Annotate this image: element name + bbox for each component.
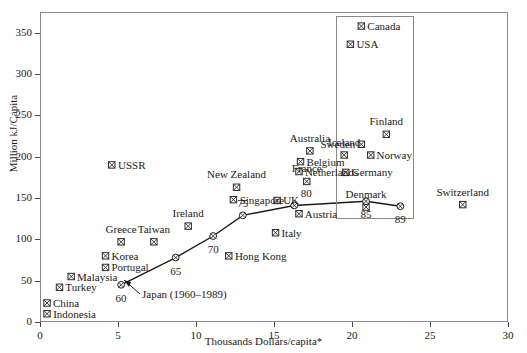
y-axis-title: Million kJ/Capita	[7, 74, 20, 194]
tick-mark	[35, 281, 40, 282]
data-point-label: Switzerland	[436, 185, 489, 198]
x-axis-tick: 5	[118, 322, 119, 348]
y-axis-tick: 150	[0, 198, 40, 199]
y-axis-tick: 350	[0, 33, 40, 34]
data-point-label: New Zealand	[207, 168, 266, 181]
data-point-label: Ireland	[173, 207, 204, 220]
y-axis-tick: 0	[0, 322, 40, 323]
japan-year-label: 80	[301, 187, 312, 200]
japan-year-label: 75	[237, 197, 248, 210]
tick-mark	[35, 115, 40, 116]
x-axis-tick: 20	[352, 322, 353, 348]
y-tick-label: 300	[16, 66, 33, 81]
data-point-label: Finland	[370, 115, 404, 128]
tick-mark	[118, 322, 119, 327]
data-point-label: USSR	[118, 158, 146, 171]
x-tick-label: 5	[104, 328, 132, 342]
y-tick-label: 0	[27, 314, 33, 329]
tick-mark	[35, 198, 40, 199]
x-tick-label: 10	[182, 328, 210, 342]
data-point-label: Greece	[106, 222, 137, 235]
japan-year-label: 65	[170, 264, 181, 277]
japan-year-label: 89	[395, 213, 406, 226]
x-tick-label: 20	[338, 328, 366, 342]
tick-mark	[35, 74, 40, 75]
x-tick-label: 15	[260, 328, 288, 342]
tick-mark	[430, 322, 431, 327]
japan-series-annotation: Japan (1960–1989)	[142, 288, 227, 301]
japan-year-label: 60	[116, 291, 127, 304]
data-point-label: China	[53, 296, 79, 309]
tick-mark	[196, 322, 197, 327]
japan-year-label: 85	[361, 208, 372, 221]
data-point-label: Hong Kong	[235, 249, 287, 262]
data-point-label: Canada	[367, 20, 400, 33]
y-axis-tick: 300	[0, 74, 40, 75]
tick-mark	[508, 322, 509, 327]
y-axis-tick: 100	[0, 239, 40, 240]
y-tick-label: 200	[16, 149, 33, 164]
y-axis-tick: 50	[0, 281, 40, 282]
japan-year-label: 70	[208, 243, 219, 256]
data-point-label: Austria	[305, 207, 337, 220]
tick-mark	[352, 322, 353, 327]
y-axis-tick: 250	[0, 115, 40, 116]
data-point-label: USA	[356, 38, 378, 51]
tick-mark	[274, 322, 275, 327]
data-point-label: UK	[283, 194, 299, 207]
y-tick-label: 250	[16, 107, 33, 122]
x-tick-label: 25	[416, 328, 444, 342]
tick-mark	[35, 239, 40, 240]
data-point-label: Italy	[281, 226, 301, 239]
x-tick-label: 0	[26, 328, 54, 342]
y-tick-label: 350	[16, 25, 33, 40]
y-axis-tick: 200	[0, 157, 40, 158]
y-tick-label: 50	[21, 273, 32, 288]
x-axis-tick: 0	[40, 322, 41, 348]
tick-mark	[35, 33, 40, 34]
data-point-label: Germany	[352, 166, 393, 179]
tick-mark	[35, 157, 40, 158]
x-tick-label: 30	[494, 328, 522, 342]
data-point-label: Taiwan	[138, 222, 170, 235]
data-point-label: Norway	[377, 149, 412, 162]
x-axis-tick: 25	[430, 322, 431, 348]
data-point-label: Sweden	[320, 138, 355, 151]
x-axis-tick: 15	[274, 322, 275, 348]
x-axis-tick: 10	[196, 322, 197, 348]
y-tick-label: 100	[16, 231, 33, 246]
energy-gdp-scatter-chart: Million kJ/Capita Thousands Dollars/capi…	[0, 0, 527, 353]
data-point-label: Denmark	[346, 188, 387, 201]
tick-mark	[40, 322, 41, 327]
data-point-label: Portugal	[111, 261, 148, 274]
data-point-label: Belgium	[307, 155, 345, 168]
x-axis-tick: 30	[508, 322, 509, 348]
y-tick-label: 150	[16, 190, 33, 205]
